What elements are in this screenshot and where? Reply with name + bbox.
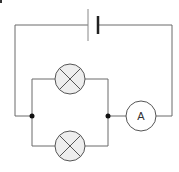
corner-mark [0,0,2,3]
right-junction-node [106,114,111,119]
battery-cell-icon [88,9,98,41]
lamp-icon [55,131,85,161]
circuit-diagram: A [0,0,179,172]
ammeter-icon: A [126,101,156,131]
ammeter-label: A [137,110,145,122]
lamp-icon [55,64,85,94]
left-junction-node [30,114,35,119]
